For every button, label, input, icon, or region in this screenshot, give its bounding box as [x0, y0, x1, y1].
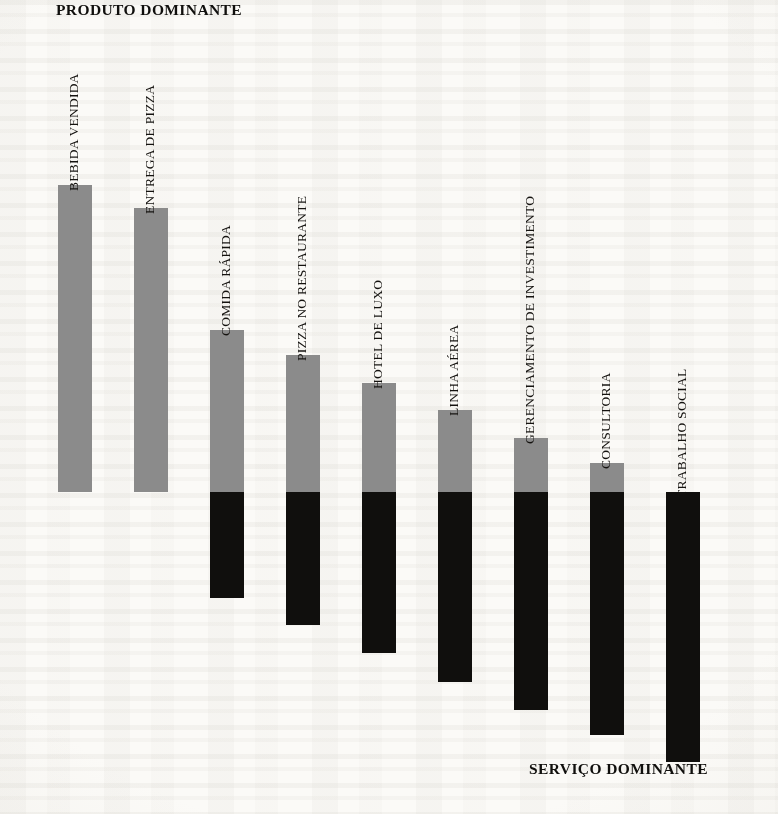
bar-segment-service[interactable]: [438, 492, 472, 682]
bar-segment-service[interactable]: [514, 492, 548, 710]
bar-segment-product[interactable]: [362, 383, 396, 492]
bar-segment-product[interactable]: [58, 185, 92, 492]
bar-segment-service[interactable]: [666, 492, 700, 762]
bar-segment-product[interactable]: [514, 438, 548, 492]
bar-chart-plot-area: BEBIDA VENDIDAENTREGA DE PIZZACOMIDA RÁP…: [0, 0, 778, 814]
bar-category-label: BEBIDA VENDIDA: [66, 73, 82, 191]
bar-segment-product[interactable]: [134, 208, 168, 492]
bar-segment-service[interactable]: [210, 492, 244, 598]
bar-group[interactable]: [362, 0, 396, 814]
bar-segment-service[interactable]: [590, 492, 624, 735]
bar-category-label: CONSULTORIA: [598, 372, 614, 469]
bar-segment-service[interactable]: [362, 492, 396, 653]
bar-category-label: HOTEL DE LUXO: [370, 280, 386, 389]
chart-page: PRODUTO DOMINANTE BEBIDA VENDIDAENTREGA …: [0, 0, 778, 814]
bar-category-label: PIZZA NO RESTAURANTE: [294, 196, 310, 361]
bar-segment-product[interactable]: [210, 330, 244, 492]
service-axis-title: SERVIÇO DOMINANTE: [529, 760, 708, 778]
bar-category-label: ENTREGA DE PIZZA: [142, 85, 158, 214]
product-axis-title: PRODUTO DOMINANTE: [56, 1, 242, 19]
bar-group[interactable]: [210, 0, 244, 814]
bar-segment-product[interactable]: [286, 355, 320, 492]
bar-category-label: GERENCIAMENTO DE INVESTIMENTO: [522, 196, 538, 444]
bar-group[interactable]: [286, 0, 320, 814]
bar-category-label: TRABALHO SOCIAL: [674, 369, 690, 498]
bar-segment-service[interactable]: [286, 492, 320, 625]
bar-segment-product[interactable]: [438, 410, 472, 492]
bar-category-label: COMIDA RÁPIDA: [218, 225, 234, 336]
bar-category-label: LINHA AÉREA: [446, 324, 462, 416]
